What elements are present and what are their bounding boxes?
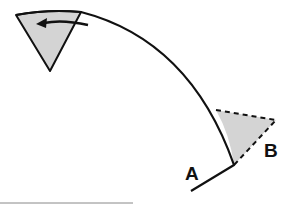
diagram: A B [0, 0, 292, 205]
top-triangle [16, 11, 81, 71]
label-b: B [264, 140, 278, 161]
label-a: A [185, 163, 199, 184]
